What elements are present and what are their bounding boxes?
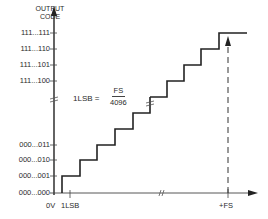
y-axis — [50, 6, 58, 195]
x-axis — [50, 189, 258, 198]
formula-denominator: 4096 — [110, 97, 127, 107]
y-tick-label: 000...000 — [19, 189, 50, 197]
x-origin-label: 0V — [46, 202, 55, 210]
y-tick-label: 111...110 — [20, 45, 50, 53]
formula-fraction: FS 4096 — [110, 86, 127, 107]
y-tick-label: 000...001 — [19, 172, 50, 180]
formula-lhs: 1LSB = — [73, 95, 99, 103]
y-tick-label: 000...011 — [19, 141, 50, 149]
full-scale-marker — [225, 36, 231, 193]
y-axis-title-line1: OUTPUT — [30, 5, 70, 12]
x-fullscale-label: +FS — [219, 202, 233, 210]
formula-numerator: FS — [112, 86, 126, 97]
adc-transfer-diagram: OUTPUT CODE 111...111 111...110 111...10… — [0, 0, 268, 219]
y-axis-title-line2: CODE — [30, 13, 70, 20]
staircase-upper — [150, 33, 247, 97]
y-tick-label: 111...111 — [21, 29, 50, 37]
x-1lsb-label: 1LSB — [61, 202, 79, 210]
staircase-lower — [62, 97, 150, 193]
x-axis-arrow-icon — [248, 190, 258, 196]
y-tick-label: 111...100 — [20, 77, 50, 85]
y-tick-label: 000...010 — [19, 156, 50, 164]
full-scale-arrow-icon — [225, 36, 231, 46]
y-tick-label: 111...101 — [20, 61, 50, 69]
